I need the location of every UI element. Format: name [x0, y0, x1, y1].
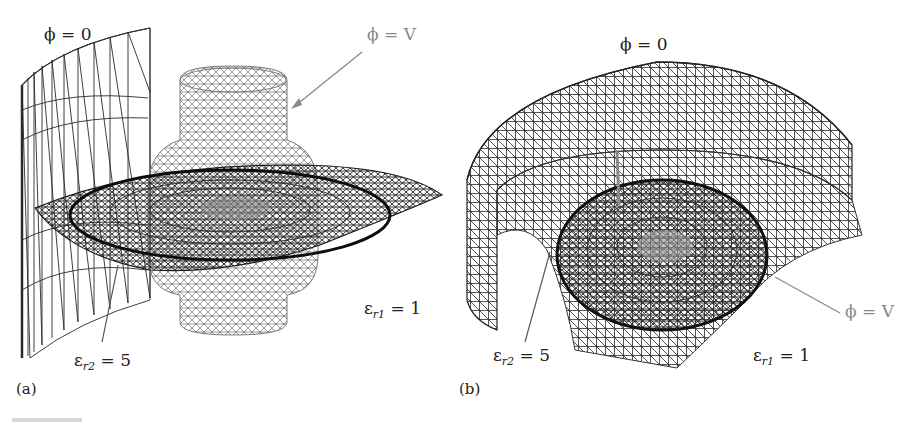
- electrode-stem: [617, 150, 619, 205]
- outer-dielectric-label: εr1 = 1: [364, 300, 421, 320]
- figure-caption-stub: [12, 418, 82, 422]
- electrode-leader-line: [295, 52, 362, 106]
- figure-panel-b: ϕ = 0 ϕ = V εr2 = 5 εr1 = 1 (b): [457, 0, 914, 424]
- outer-dielectric-label: εr1 = 1: [753, 347, 810, 367]
- arrowhead-icon: [291, 98, 302, 109]
- ground-boundary-label: ϕ = 0: [44, 26, 91, 43]
- panel-tag: (a): [16, 380, 37, 398]
- inner-dielectric-label: εr2 = 5: [493, 347, 550, 367]
- electrode-label: ϕ = V: [845, 303, 894, 320]
- dielectric-leader-line: [525, 252, 550, 342]
- inner-dielectric-label: εr2 = 5: [74, 352, 131, 372]
- electrode-label: ϕ = V: [367, 26, 416, 43]
- electrode-leader-line: [775, 277, 840, 313]
- panel-tag: (b): [459, 380, 480, 398]
- ground-boundary-label: ϕ = 0: [620, 36, 667, 53]
- figure-panel-a: ϕ = 0 ϕ = V εr2 = 5 εr1 = 1 (a): [0, 0, 457, 424]
- dielectric-bowl-mesh: [557, 180, 767, 330]
- mesh-plot-a: [0, 0, 457, 424]
